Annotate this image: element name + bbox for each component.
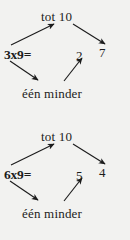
equation-label: 6x9= (4, 168, 31, 182)
arrow-equation-to-een-minder (10, 61, 38, 80)
units-digit: 4 (99, 166, 106, 179)
arrow-tot10-to-units (73, 144, 105, 164)
equation-label: 3x9= (4, 48, 31, 62)
tens-digit: 5 (76, 169, 83, 182)
een-minder-label: één minder (22, 207, 82, 220)
arrow-tot10-to-units (73, 24, 105, 44)
multiplication-diagram: tot 10 6x9= 5 4 één minder (0, 122, 130, 230)
multiplication-diagram: tot 10 3x9= 2 7 één minder (0, 2, 130, 110)
arrow-equation-to-een-minder (10, 181, 38, 200)
tens-digit: 2 (76, 49, 83, 62)
arrow-equation-to-tot10 (11, 144, 54, 165)
units-digit: 7 (99, 46, 106, 59)
tot-10-label: tot 10 (41, 10, 72, 23)
arrow-equation-to-tot10 (11, 24, 54, 45)
tot-10-label: tot 10 (41, 130, 72, 143)
een-minder-label: één minder (22, 87, 82, 100)
worksheet-page: tot 10 3x9= 2 7 één minder tot 10 6x9= 5… (0, 0, 130, 240)
